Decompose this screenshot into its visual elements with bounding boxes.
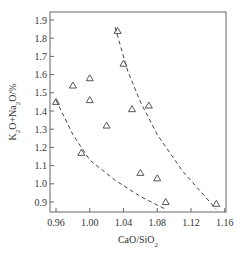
triangle-marker-icon	[137, 169, 144, 175]
x-tick-label: 1.04	[115, 217, 133, 228]
triangle-marker-icon	[162, 199, 169, 205]
x-tick-label: 0.96	[47, 217, 65, 228]
y-tick-label: 1.1	[35, 160, 48, 171]
triangle-marker-icon	[86, 97, 93, 103]
x-axis-title: CaO/SiO2	[118, 234, 159, 249]
x-tick-label: 1.16	[216, 217, 234, 228]
x-tick-label: 1.08	[149, 217, 167, 228]
triangle-marker-icon	[103, 122, 110, 128]
triangle-marker-icon	[128, 106, 135, 112]
y-tick-label: 1.8	[35, 33, 48, 44]
y-axis: 0.91.01.11.21.31.41.51.61.71.81.9	[35, 15, 55, 208]
lower-dashed-boundary	[56, 100, 166, 209]
y-tick-label: 1.5	[35, 87, 48, 98]
y-tick-label: 1.0	[35, 178, 48, 189]
y-tick-label: 0.9	[35, 197, 48, 208]
x-tick-label: 1.00	[81, 217, 99, 228]
x-axis: 0.961.001.041.081.121.16	[47, 208, 233, 228]
y-tick-label: 1.2	[35, 142, 48, 153]
y-tick-label: 1.6	[35, 69, 48, 80]
boundary-lines	[56, 27, 216, 209]
triangle-marker-icon	[145, 102, 152, 108]
y-axis-title: K2O+Na2O/%	[7, 83, 22, 140]
upper-dashed-boundary	[115, 27, 216, 209]
data-points	[53, 27, 220, 206]
triangle-marker-icon	[69, 82, 76, 88]
y-tick-label: 1.7	[35, 51, 48, 62]
triangle-marker-icon	[213, 200, 220, 206]
scatter-chart: 0.91.01.11.21.31.41.51.61.71.81.9 0.961.…	[0, 0, 247, 257]
triangle-marker-icon	[86, 75, 93, 81]
y-tick-label: 1.9	[35, 15, 48, 26]
triangle-marker-icon	[53, 98, 60, 104]
x-tick-label: 1.12	[182, 217, 200, 228]
plot-frame	[50, 12, 226, 212]
triangle-marker-icon	[154, 175, 161, 181]
y-tick-label: 1.4	[35, 106, 48, 117]
plot-area	[50, 12, 226, 212]
y-tick-label: 1.3	[35, 124, 48, 135]
